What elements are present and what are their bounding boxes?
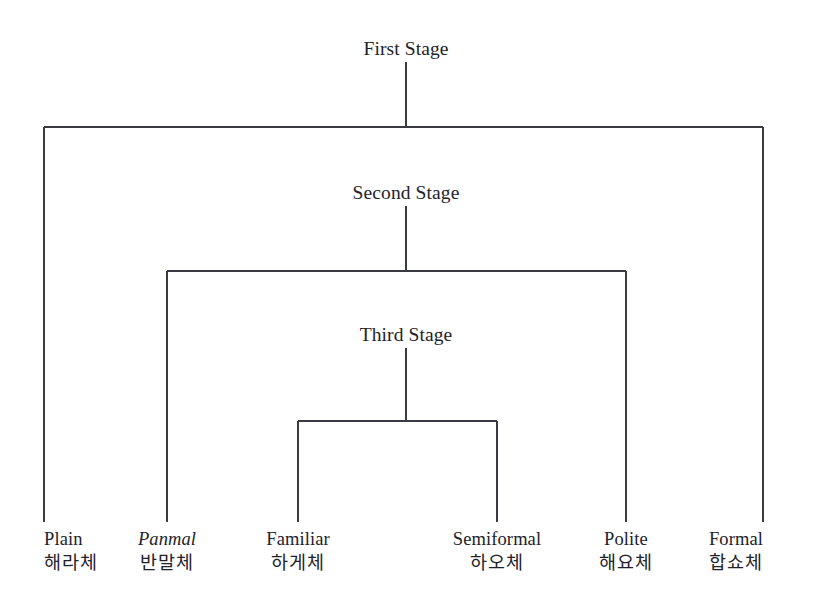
leaf-node-panmal: Panmal 반말체 — [138, 530, 196, 573]
leaf-node-formal: Formal 합쇼체 — [709, 530, 763, 573]
tree-connector-lines — [0, 0, 816, 605]
leaf-romanized-polite: Polite — [599, 530, 653, 550]
first-stage-label: First Stage — [363, 38, 448, 59]
leaf-node-familiar: Familiar 하게체 — [266, 530, 329, 573]
leaf-romanized-panmal: Panmal — [138, 530, 196, 550]
second-stage-label: Second Stage — [353, 182, 460, 203]
third-stage-label: Third Stage — [360, 324, 453, 345]
leaf-hangul-familiar: 하게체 — [266, 553, 329, 573]
node-first-stage: First Stage — [363, 38, 448, 59]
tree-diagram: First Stage Second Stage Third Stage Pla… — [0, 0, 816, 605]
leaf-hangul-semiformal: 하오체 — [453, 553, 541, 573]
leaf-hangul-formal: 합쇼체 — [709, 553, 763, 573]
leaf-hangul-polite: 해요체 — [599, 553, 653, 573]
leaf-romanized-familiar: Familiar — [266, 530, 329, 550]
leaf-romanized-formal: Formal — [709, 530, 763, 550]
leaf-hangul-plain: 해라체 — [44, 553, 98, 573]
leaf-romanized-plain: Plain — [44, 530, 98, 550]
leaf-romanized-semiformal: Semiformal — [453, 530, 541, 550]
leaf-node-polite: Polite 해요체 — [599, 530, 653, 573]
leaf-node-semiformal: Semiformal 하오체 — [453, 530, 541, 573]
node-second-stage: Second Stage — [353, 182, 460, 203]
leaf-hangul-panmal: 반말체 — [138, 553, 196, 573]
leaf-node-plain: Plain 해라체 — [44, 530, 98, 573]
node-third-stage: Third Stage — [360, 324, 453, 345]
